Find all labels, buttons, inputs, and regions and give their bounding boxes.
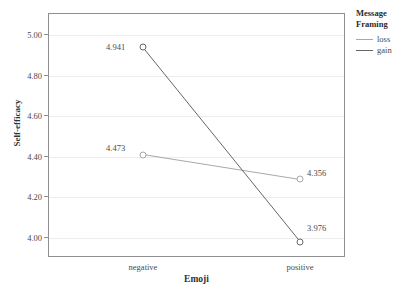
y-axis-label: Self-efficacy <box>12 68 22 178</box>
ytick-mark-4-40 <box>44 156 48 157</box>
point-label-loss-negative: 4.473 <box>106 143 125 153</box>
legend-label-gain: gain <box>377 45 392 55</box>
point-label-loss-positive: 4.356 <box>307 168 326 178</box>
ytick-mark-4-60 <box>44 115 48 116</box>
gridline-4-80 <box>49 76 344 77</box>
legend-title-line1: Message <box>356 8 416 19</box>
legend-label-loss: loss <box>377 34 390 44</box>
gridline-5-00 <box>49 35 344 36</box>
ytick-mark-5-00 <box>44 34 48 35</box>
gridline-4-00 <box>49 238 344 239</box>
legend-swatch-loss-icon <box>356 39 373 40</box>
xtick-label-negative: negative <box>103 262 183 272</box>
legend-swatch-gain-icon <box>356 50 373 51</box>
legend-item-gain[interactable]: gain <box>356 45 416 55</box>
legend-item-loss[interactable]: loss <box>356 34 416 44</box>
xtick-label-positive: positive <box>260 262 340 272</box>
point-label-gain-negative: 4.941 <box>106 42 125 52</box>
gridline-4-40 <box>49 157 344 158</box>
chart-root: 5.00 4.80 4.60 4.40 4.20 4.00 Self-effic… <box>0 0 417 292</box>
legend-title-line2: Framing <box>356 19 416 30</box>
x-axis-label: Emoji <box>48 274 345 284</box>
gridline-4-60 <box>49 116 344 117</box>
ytick-mark-4-20 <box>44 196 48 197</box>
ytick-mark-4-80 <box>44 75 48 76</box>
gridline-4-20 <box>49 197 344 198</box>
ytick-label-4-20: 4.20 <box>16 192 42 202</box>
ytick-mark-4-00 <box>44 237 48 238</box>
ytick-label-5-00: 5.00 <box>16 30 42 40</box>
ytick-label-4-00: 4.00 <box>16 233 42 243</box>
legend: Message Framing loss gain <box>356 8 416 55</box>
legend-title: Message Framing <box>356 8 416 29</box>
plot-area <box>48 13 345 257</box>
point-label-gain-positive: 3.976 <box>307 223 326 233</box>
